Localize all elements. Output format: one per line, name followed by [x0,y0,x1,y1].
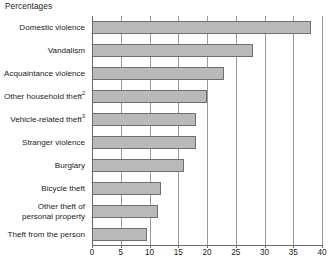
bar-row [92,154,322,177]
bar [92,113,196,126]
bar-row [92,223,322,246]
bar-row [92,177,322,200]
footnote-marker: 3 [82,113,85,119]
x-tick-mark-0 [92,245,93,248]
bar-row [92,62,322,85]
bar-row [92,131,322,154]
bar-chart: Percentages Domestic violenceVandalismAc… [0,0,332,272]
bar [92,159,184,172]
category-label: Other theft ofpersonal property [22,202,85,221]
x-tick-mark-20 [207,245,208,248]
x-tick-label-40: 40 [317,248,326,257]
category-label: Vandalism [48,46,85,55]
x-tick-label-0: 0 [90,248,95,257]
x-tick-label-35: 35 [289,248,298,257]
bar [92,136,196,149]
footnote-marker: 2 [82,90,85,96]
category-label: Theft from the person [8,230,85,239]
category-label: Stranger violence [22,138,85,147]
x-tick-mark-25 [236,245,237,248]
x-tick-mark-5 [121,245,122,248]
category-label: Domestic violence [19,23,85,32]
x-tick-label-25: 25 [231,248,240,257]
bar-row [92,85,322,108]
bar [92,182,161,195]
axis-title-percentages: Percentages [5,2,52,11]
bar [92,21,311,34]
x-tick-mark-15 [178,245,179,248]
category-labels: Domestic violenceVandalismAcquaintance v… [0,16,88,246]
bar [92,228,147,241]
x-tick-label-5: 5 [118,248,123,257]
bars-group [92,16,322,246]
bar [92,90,207,103]
bar-row [92,200,322,223]
bar-row [92,39,322,62]
x-tick-label-10: 10 [145,248,154,257]
bar-row [92,108,322,131]
plot-area [92,16,322,246]
x-tick-mark-40 [322,245,323,248]
category-label: Burglary [55,161,85,170]
bar-row [92,16,322,39]
x-tick-label-15: 15 [174,248,183,257]
bar [92,44,253,57]
x-tick-label-30: 30 [260,248,269,257]
category-label: Vehicle-related theft3 [10,115,85,124]
x-tick-label-20: 20 [202,248,211,257]
gridline-40 [322,16,323,246]
category-label: Bicycle theft [41,184,85,193]
category-label: Acquaintance violence [4,69,85,78]
x-tick-mark-10 [150,245,151,248]
bar [92,205,158,218]
bar [92,67,224,80]
x-tick-labels: 0510152025303540 [92,248,322,264]
category-label: Other household theft2 [4,92,85,101]
x-tick-mark-35 [293,245,294,248]
y-axis-line [92,16,93,246]
x-tick-mark-30 [265,245,266,248]
